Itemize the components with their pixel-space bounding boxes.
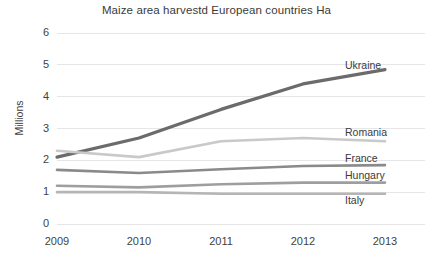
x-tick-label: 2012 xyxy=(273,235,333,247)
series-label-hungary: Hungary xyxy=(345,169,385,181)
y-tick-label: 0 xyxy=(23,217,49,229)
series-line-france xyxy=(57,165,385,173)
series-lines xyxy=(57,70,385,194)
series-label-ukraine: Ukraine xyxy=(345,59,381,71)
x-tick-label: 2011 xyxy=(191,235,251,247)
y-tick-label: 6 xyxy=(23,26,49,38)
series-line-ukraine xyxy=(57,70,385,158)
series-line-romania xyxy=(57,138,385,157)
x-tick-label: 2013 xyxy=(355,235,415,247)
line-chart: Maize area harvestd European countries H… xyxy=(0,0,433,259)
y-tick-label: 2 xyxy=(23,153,49,165)
y-tick-label: 4 xyxy=(23,90,49,102)
y-tick-label: 3 xyxy=(23,122,49,134)
series-label-italy: Italy xyxy=(345,194,364,206)
y-tick-label: 1 xyxy=(23,185,49,197)
series-label-romania: Romania xyxy=(345,126,387,138)
x-tick-label: 2009 xyxy=(27,235,87,247)
series-line-hungary xyxy=(57,183,385,188)
x-tick-label: 2010 xyxy=(109,235,169,247)
y-tick-label: 5 xyxy=(23,58,49,70)
series-label-france: France xyxy=(345,152,378,164)
